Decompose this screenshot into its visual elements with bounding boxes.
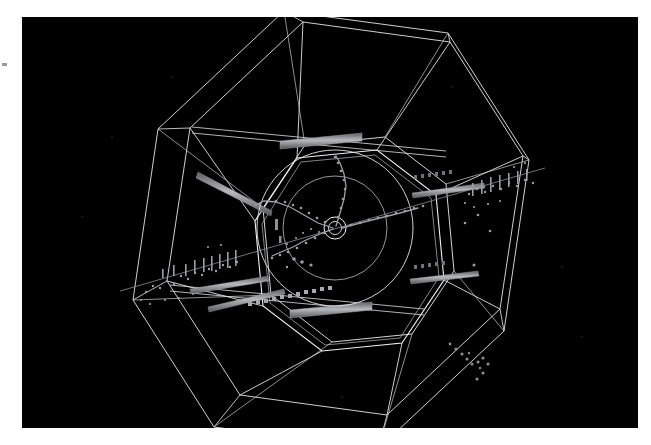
tracker-hit	[300, 260, 304, 264]
muon-hit-bar	[499, 175, 501, 190]
endcap-hit-block	[280, 295, 284, 299]
muon-hit	[513, 166, 515, 168]
endcap-hit-block	[248, 302, 252, 306]
tracker-hit	[259, 203, 262, 206]
tracker-hit	[386, 215, 389, 218]
muon-hit	[524, 162, 526, 164]
spoke-back-e	[446, 160, 529, 184]
tracker-hit	[359, 222, 362, 225]
endcap-segment-mark	[435, 172, 438, 176]
endcap-hit-block	[312, 289, 316, 293]
endcap-segment-mark	[435, 262, 438, 266]
muon-hit	[166, 280, 168, 282]
muon-hit	[473, 206, 475, 208]
sector-hit	[481, 371, 484, 374]
endcap-hit-block	[304, 290, 308, 294]
tracker-outer-radius-circle	[257, 150, 413, 306]
muon-hit-bar	[481, 180, 483, 194]
muon-hit	[215, 270, 217, 272]
muon-chamber-front-face	[167, 22, 523, 415]
edge-registration-mark	[2, 63, 7, 66]
tracker-hit	[340, 207, 343, 210]
noise-speck	[341, 396, 342, 397]
tracker-hit	[292, 257, 296, 261]
sector-hit	[475, 377, 478, 380]
spoke-ne	[377, 42, 450, 150]
muon-hit	[468, 193, 470, 195]
muon-hit	[532, 182, 534, 184]
calorimeter-bar-upper-left	[196, 172, 272, 216]
muon-hit-bar	[162, 269, 164, 278]
endcap-segment-mark	[442, 171, 445, 175]
sector-hit	[481, 356, 484, 359]
tracker-hit	[284, 201, 287, 204]
spoke-back-nw	[158, 129, 263, 208]
muon-hit	[208, 268, 210, 270]
tracker-hit	[295, 237, 297, 239]
muon-hit-bar	[472, 183, 474, 196]
endcap-hit-block	[256, 300, 260, 304]
muon-hit	[159, 287, 161, 289]
muon-hit	[173, 283, 175, 285]
sector-hit	[449, 343, 452, 346]
muon-hit	[187, 278, 189, 280]
tracker-hit	[316, 217, 319, 220]
muon-hit	[222, 264, 224, 266]
muon-hit	[477, 214, 480, 217]
muon-hit	[164, 299, 166, 301]
tracker-hit	[286, 266, 288, 268]
endcap-hit-block	[264, 299, 268, 303]
tracker-hit	[342, 198, 345, 201]
muon-hit	[145, 291, 147, 293]
muon-hit	[476, 188, 478, 190]
muon-hit	[178, 297, 180, 299]
noise-speck	[221, 366, 222, 367]
track-upper-curving	[336, 156, 346, 226]
spoke-back-s	[378, 334, 412, 428]
calorimeter-bar-lower-left	[190, 276, 269, 294]
tracker-hit	[343, 179, 346, 182]
tracker-hit	[337, 216, 340, 219]
muon-hit-bar	[219, 254, 221, 269]
tracker-hit	[305, 242, 308, 245]
sector-hit	[465, 357, 468, 360]
tracker-hit	[271, 257, 274, 260]
calorimeter-bar-inner-top	[280, 133, 362, 149]
muon-hit	[473, 264, 476, 267]
tracker-hit	[275, 200, 278, 203]
muon-hit	[484, 191, 486, 193]
sector-hit	[476, 360, 479, 363]
inner-octagon-front-inner-rim	[262, 155, 439, 345]
tracker-hit	[309, 263, 312, 266]
spoke-s	[387, 343, 402, 415]
muon-hit-bar	[526, 169, 528, 181]
muon-hit	[149, 303, 151, 305]
muon-hit-bar	[235, 250, 237, 266]
detector-wireframe-canvas	[22, 17, 638, 428]
tracker-hit	[314, 237, 317, 240]
tracker-hit	[308, 212, 311, 215]
spoke-back-se	[454, 271, 504, 331]
beampipe-inner-circle	[329, 222, 342, 235]
muon-hit-bar	[173, 265, 175, 276]
endcap-segment-mark	[449, 170, 452, 174]
track-right-outgoing	[342, 208, 418, 228]
endcap-segment-mark	[421, 264, 424, 268]
tracker-hit	[286, 243, 288, 245]
sector-hit	[479, 367, 481, 369]
event-display-panel[interactable]	[22, 17, 638, 428]
spoke-back-n	[284, 17, 305, 145]
spoke-se	[444, 280, 500, 309]
tracker-hit	[292, 204, 295, 207]
endcap-hit-block	[320, 287, 324, 291]
muon-hit-bar	[203, 258, 205, 272]
depth-edge-7	[133, 281, 167, 300]
endcap-segment-mark	[442, 261, 445, 265]
muon-hit	[192, 293, 194, 295]
muon-hit-bar	[227, 252, 229, 268]
muon-hit	[207, 246, 209, 248]
muon-hit-bar	[508, 173, 510, 187]
noise-speck	[111, 136, 112, 137]
endcap-segment-mark	[428, 173, 431, 177]
endcap-segment-mark	[428, 263, 431, 267]
